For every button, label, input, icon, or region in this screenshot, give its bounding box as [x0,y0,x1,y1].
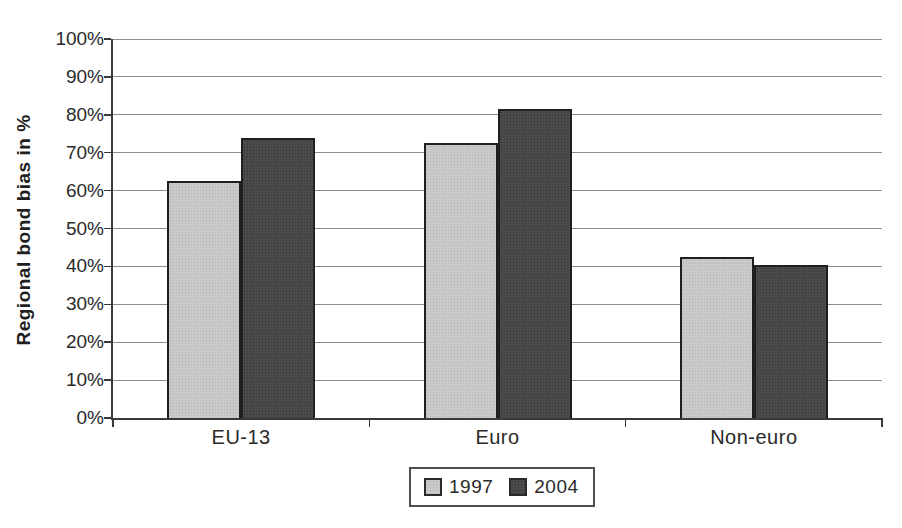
legend-swatch-2004 [509,478,527,496]
y-tick-label: 0% [30,407,104,429]
y-axis-tick [104,190,111,192]
legend-item-1997: 1997 [424,476,493,498]
legend-swatch-1997 [424,478,442,496]
bar-1997-Non-euro [680,257,754,418]
bar-1997-EU-13 [167,181,241,418]
y-axis-tick [104,379,111,381]
bar-2004-Non-euro [754,265,828,418]
y-tick-label: 90% [30,66,104,88]
y-axis-tick [104,114,111,116]
legend-label-2004: 2004 [534,476,578,498]
y-tick-label: 80% [30,104,104,126]
bar-2004-Euro [498,109,572,418]
y-axis-tick [104,341,111,343]
gridline-90% [113,76,882,77]
y-axis-tick [104,266,111,268]
y-tick-label: 60% [30,180,104,202]
y-tick-label: 30% [30,293,104,315]
legend-label-1997: 1997 [449,476,493,498]
bar-chart-figure: Regional bond bias in % 0%10%20%30%40%50… [0,0,902,528]
y-tick-label: 50% [30,218,104,240]
y-tick-label: 10% [30,369,104,391]
legend: 19972004 [409,467,595,507]
plot-area [111,39,882,420]
y-axis-tick [104,38,111,40]
category-label-Euro: Euro [475,426,519,449]
y-tick-label: 40% [30,255,104,277]
y-axis-tick [104,228,111,230]
y-axis-tick [104,152,111,154]
category-label-EU-13: EU-13 [212,426,271,449]
gridline-100% [113,39,882,40]
y-axis-tick [104,304,111,306]
y-tick-label: 100% [30,28,104,50]
legend-item-2004: 2004 [509,476,578,498]
category-label-Non-euro: Non-euro [710,426,797,449]
y-axis-tick-labels: 0%10%20%30%40%50%60%70%80%90%100% [30,39,104,420]
y-axis-tick [104,417,111,419]
bar-2004-EU-13 [241,138,315,418]
y-axis-tick [104,76,111,78]
x-axis-category-labels: EU-13EuroNon-euro [113,426,882,452]
y-tick-label: 70% [30,142,104,164]
bar-1997-Euro [424,143,498,418]
y-tick-label: 20% [30,331,104,353]
